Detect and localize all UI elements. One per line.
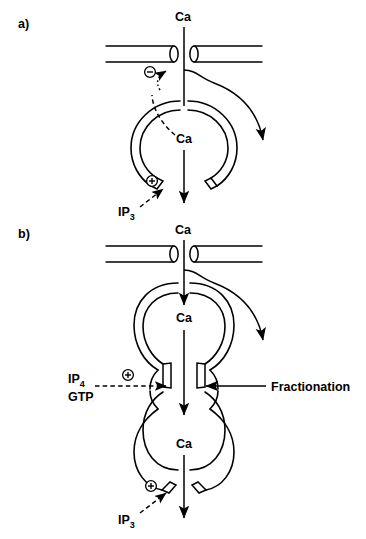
panel-b-ca-lower-label: Ca [176,437,193,451]
panel-a-label: a) [18,17,29,31]
circled-plus-symbol-a [147,176,158,187]
organelle-outer-wall-right-a [188,101,237,186]
panel-b-gtp-label: GTP [68,390,94,404]
panel-b-ca-upper-label: Ca [176,311,193,325]
circled-minus-symbol-a [145,67,156,78]
organelle-lip-right-a [205,178,217,189]
panel-a-ca-lumen-label: Ca [176,132,193,146]
upper-lobe-lip-left-b [163,363,171,388]
figure-canvas: a) Ca Ca [0,0,366,539]
membrane-tube-right-b [190,246,262,262]
inhibition-arrow-a [158,71,166,90]
circled-plus-symbol-lower-b [146,481,157,492]
upper-lobe-outer-right-b [190,283,234,370]
panel-a-ca-top-label: Ca [175,10,192,24]
lower-lobe-inner-right-b [190,392,225,470]
upper-lobe-inner-left-b [143,293,178,364]
ip3-activation-arrow-a [140,189,163,207]
circled-plus-symbol-upper-b [123,370,134,381]
ip3-activation-arrow-b [140,493,166,513]
panel-a-ip3-label: IP3 [118,205,135,222]
membrane-tube-left-b [106,246,178,262]
upper-lobe-lip-right-b [197,363,205,388]
membrane-tube-right-a [190,46,262,62]
panel-b: b) Ca Ca [18,223,350,530]
organelle-outer-wall-left-a [131,101,180,186]
organelle-inner-wall-left-a [140,110,180,178]
lower-lobe-outer-left-b [134,409,162,490]
lower-lobe-lip-right-b [192,482,206,493]
membrane-tube-left-a [106,46,178,62]
diagram-svg: a) Ca Ca [0,0,366,539]
panel-b-ca-top-label: Ca [175,223,192,237]
upper-lobe-outer-left-b [134,283,178,370]
lower-lobe-inner-left-b [143,392,178,470]
panel-a: a) Ca Ca [18,10,263,222]
upper-lobe-inner-right-b [190,293,225,364]
organelle-inner-wall-right-a [188,110,228,178]
ca-overflow-arrow-b [184,270,263,340]
panel-b-ip3-label: IP3 [118,513,135,530]
lower-lobe-outer-right-b [206,409,234,490]
panel-b-fractionation-label: Fractionation [271,380,350,394]
panel-b-ip4-label: IP4 [68,372,85,389]
lower-lobe-lip-left-b [162,482,176,493]
panel-b-label: b) [18,227,30,241]
